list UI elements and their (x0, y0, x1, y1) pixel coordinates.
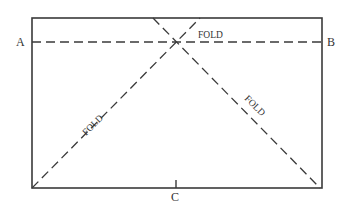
point-label-c: C (171, 190, 179, 204)
folding-diagram: A B C FOLD FOLD FOLD (0, 0, 347, 215)
fold-label-diagonal-left: FOLD (80, 113, 105, 138)
fold-line-diagonal-right (153, 18, 320, 188)
fold-label-diagonal-right: FOLD (243, 93, 268, 118)
point-label-a: A (16, 35, 25, 49)
point-label-b: B (327, 35, 335, 49)
fold-label-horizontal: FOLD (198, 30, 223, 40)
paper-rectangle (32, 18, 322, 188)
fold-line-diagonal-left (32, 18, 200, 188)
